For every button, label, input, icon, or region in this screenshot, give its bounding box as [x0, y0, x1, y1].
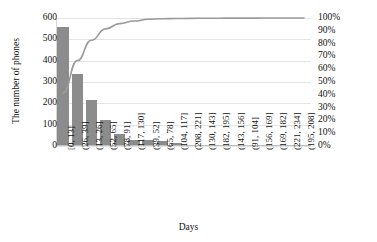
- x-axis-category-label: (13, 26]: [95, 122, 104, 151]
- x-axis-category-label: (169, 182]: [279, 113, 288, 151]
- cumulative-line-path: [63, 18, 304, 93]
- secondary-y-axis-tick-label: 10%: [318, 128, 364, 138]
- x-axis-category-label: (78, 91]: [123, 122, 132, 151]
- secondary-y-axis-tick-label: 40%: [318, 90, 364, 100]
- x-axis-category-label: (91, 104]: [251, 117, 260, 150]
- y-axis-tick-label: 200: [17, 98, 57, 108]
- x-axis-category-label: (208, 221]: [194, 113, 203, 151]
- x-axis-category-label: (26, 39]: [81, 122, 90, 151]
- y-axis-tick-label: 300: [17, 77, 57, 87]
- x-axis-category-label: (195, 208]: [307, 113, 316, 151]
- secondary-y-axis-tick-label: 90%: [318, 26, 364, 36]
- x-axis-category-label: (221, 234]: [293, 113, 302, 151]
- x-axis-category-label: (39, 52]: [152, 122, 161, 151]
- y-axis-tick-label: 400: [17, 56, 57, 66]
- secondary-y-axis-tick-label: 0%: [318, 141, 364, 151]
- x-axis-category-label: (104, 117]: [180, 113, 189, 150]
- pareto-chart: The number of phones Days 01002003004005…: [0, 0, 377, 242]
- secondary-y-axis-tick-label: 60%: [318, 64, 364, 74]
- secondary-y-axis-tick-label: 80%: [318, 39, 364, 49]
- y-axis-tick-label: 500: [17, 34, 57, 44]
- x-axis-category-label: (182, 195]: [222, 113, 231, 151]
- x-axis-category-label: (65, 78]: [166, 122, 175, 151]
- x-axis-category-label: (130, 143]: [208, 113, 217, 151]
- x-axis-category-label: (156, 169]: [265, 113, 274, 151]
- secondary-y-axis-tick-label: 20%: [318, 115, 364, 125]
- secondary-y-axis-tick-label: 30%: [318, 103, 364, 113]
- x-axis-category-label: (117, 130]: [137, 113, 146, 150]
- x-axis-category-label: (52, 65]: [109, 122, 118, 151]
- y-axis-tick-label: 600: [17, 13, 57, 23]
- x-axis-category-label: (143, 156]: [237, 113, 246, 151]
- secondary-y-axis-tick-label: 50%: [318, 77, 364, 87]
- x-axis-title: Days: [0, 222, 377, 232]
- y-axis-tick-label: 0: [17, 141, 57, 151]
- y-axis-tick-label: 100: [17, 120, 57, 130]
- secondary-y-axis-tick-label: 100%: [318, 13, 364, 23]
- x-axis-category-label: [0, 13]: [67, 126, 76, 150]
- secondary-y-axis-tick-label: 70%: [318, 51, 364, 61]
